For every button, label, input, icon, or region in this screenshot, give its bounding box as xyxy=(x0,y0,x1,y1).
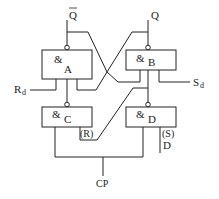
cp-label: CP xyxy=(96,178,109,189)
labels: Q Q R d S d (R) (S) D CP xyxy=(14,8,204,189)
gate-c: & C xyxy=(42,102,92,127)
gate-d-symbol: & xyxy=(136,108,145,120)
gate-a-label: A xyxy=(64,63,72,75)
rd-label: R xyxy=(14,83,22,95)
d-input-label: D xyxy=(163,139,171,151)
sd-subscript: d xyxy=(200,81,204,90)
logic-circuit-diagram: & A & B & C & D xyxy=(0,0,219,199)
gate-d-label: D xyxy=(148,113,156,125)
gate-b-label: B xyxy=(148,56,155,68)
gate-c-label: C xyxy=(64,113,71,125)
gate-d: & D xyxy=(126,102,176,127)
wires xyxy=(30,20,190,176)
gate-b-symbol: & xyxy=(136,52,145,64)
gate-c-symbol: & xyxy=(52,108,61,120)
r-paren-label: (R) xyxy=(80,128,93,140)
gate-a: & A xyxy=(42,45,92,79)
q-bar-label: Q xyxy=(69,9,77,21)
gate-b: & B xyxy=(126,45,176,70)
gate-a-symbol: & xyxy=(54,53,63,65)
rd-subscript: d xyxy=(22,88,26,97)
sd-label: S xyxy=(193,76,199,88)
q-label: Q xyxy=(151,9,159,21)
